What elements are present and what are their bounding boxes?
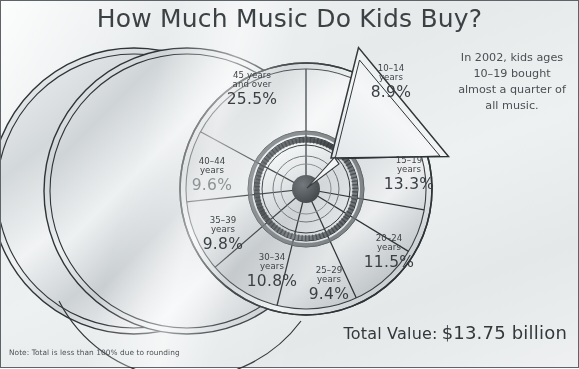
slice-label-line2: years: [260, 261, 284, 271]
slice-label-line2: years: [317, 274, 341, 284]
slice-label-line2: years: [397, 164, 421, 174]
slice-label-15-19: 15–19 years 13.3%: [376, 156, 442, 192]
slice-label-40-44: 40–44 years 9.6%: [180, 157, 244, 193]
slice-label-45-and-over: 45 years and over 25.5%: [204, 71, 300, 107]
total-value-label: Total Value:: [343, 324, 437, 343]
slice-value-15-19: 13.3%: [376, 176, 442, 193]
total-value-amount: $13.75 billion: [442, 322, 567, 343]
slice-value-30-34: 10.8%: [238, 273, 306, 290]
slice-value-10-14: 8.9%: [359, 84, 423, 101]
slice-label-line2: years: [377, 242, 401, 252]
total-value-block: Total Value:$13.75 billion: [343, 322, 567, 343]
slice-value-25-29: 9.4%: [298, 286, 360, 303]
slice-label-30-34: 30–34 years 10.8%: [238, 253, 306, 289]
slice-label-line2: years: [379, 72, 403, 82]
slice-label-line2: years: [211, 224, 235, 234]
slice-value-45-and-over: 25.5%: [204, 91, 300, 108]
slice-label-25-29: 25–29 years 9.4%: [298, 266, 360, 302]
slice-label-20-24: 20–24 years 11.5%: [356, 234, 422, 270]
slice-label-10-14: 10–14 years 8.9%: [359, 64, 423, 100]
callout-text: In 2002, kids ages 10–19 bought almost a…: [453, 50, 571, 114]
slice-label-line2: years: [200, 165, 224, 175]
slice-value-35-39: 9.8%: [190, 236, 256, 253]
slice-label-line2: and over: [233, 79, 272, 89]
slice-value-40-44: 9.6%: [180, 177, 244, 194]
slice-value-20-24: 11.5%: [356, 254, 422, 271]
page-title: How Much Music Do Kids Buy?: [1, 4, 578, 33]
slice-label-35-39: 35–39 years 9.8%: [190, 216, 256, 252]
footnote: Note: Total is less than 100% due to rou…: [9, 348, 180, 357]
